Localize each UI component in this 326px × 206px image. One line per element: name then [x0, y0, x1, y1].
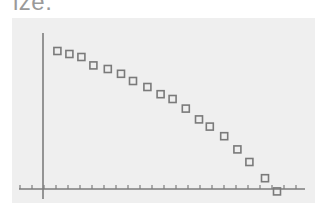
square-marker [144, 84, 151, 91]
square-marker [104, 66, 111, 73]
square-marker [157, 91, 164, 98]
square-marker [54, 48, 61, 55]
square-marker [90, 62, 97, 69]
square-marker [78, 54, 85, 61]
data-markers [54, 48, 281, 195]
x-axis [19, 185, 305, 189]
square-marker [206, 123, 213, 130]
square-marker [246, 159, 253, 166]
square-marker [169, 96, 176, 103]
square-marker [66, 51, 73, 58]
square-marker [196, 116, 203, 123]
square-marker [130, 78, 137, 85]
square-marker [234, 146, 241, 153]
square-marker [118, 70, 125, 77]
square-marker [221, 133, 228, 140]
scatter-plot [0, 0, 326, 206]
square-marker [262, 175, 269, 182]
square-marker [182, 105, 189, 112]
